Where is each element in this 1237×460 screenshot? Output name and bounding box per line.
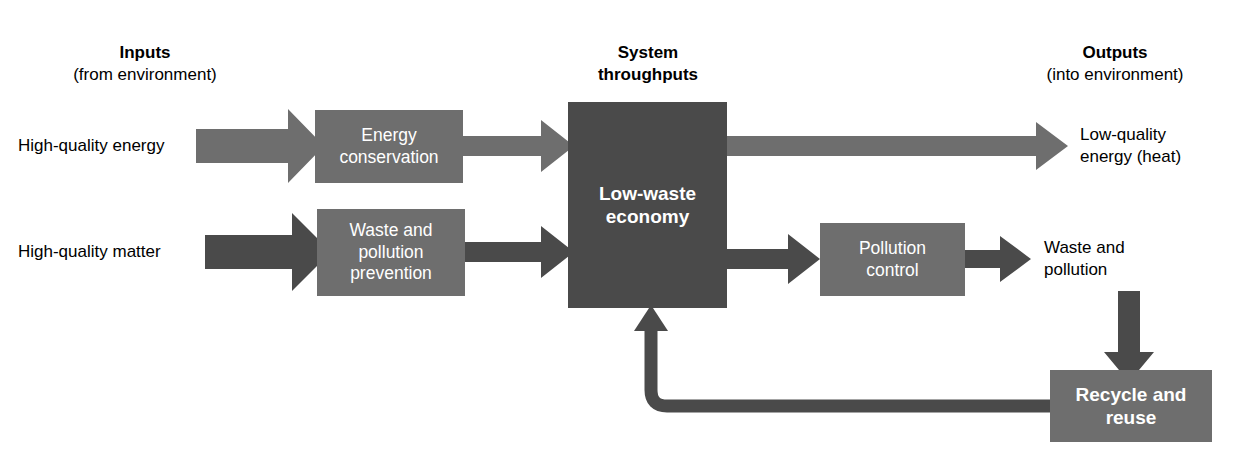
prevention-to-core-arrow <box>464 226 574 278</box>
pollution-control-output-arrow <box>963 236 1031 282</box>
box-waste-prevention-line1: Waste and <box>349 220 432 240</box>
box-pollution-control-line1: Pollution <box>859 238 926 258</box>
header-inputs-subtitle: (from environment) <box>20 64 270 86</box>
output-label-waste-and-pollution: Waste and pollution <box>1044 237 1125 281</box>
header-outputs-title: Outputs <box>1000 42 1230 64</box>
box-waste-prevention-line2: pollution <box>358 242 423 262</box>
box-recycle-and-reuse[interactable]: Recycle and reuse <box>1050 370 1212 442</box>
header-throughputs-subtitle: throughputs <box>548 64 748 86</box>
box-core-line1: Low-waste <box>599 183 696 204</box>
header-throughputs-title: System <box>548 42 748 64</box>
matter-input-arrow <box>205 213 331 291</box>
energy-input-arrow <box>196 109 324 183</box>
waste-to-recycle-arrow <box>1104 291 1154 382</box>
recycle-feedback-arrowhead <box>634 305 668 331</box>
conservation-to-core-arrow <box>461 120 574 172</box>
box-pollution-control[interactable]: Pollution control <box>820 223 965 296</box>
box-low-waste-economy[interactable]: Low-waste economy <box>568 102 727 308</box>
diagram-canvas: Inputs (from environment) System through… <box>0 0 1237 460</box>
box-recycle-line1: Recycle and <box>1076 384 1187 405</box>
output-low-quality-energy-line2: energy (heat) <box>1080 147 1181 166</box>
header-outputs: Outputs (into environment) <box>1000 42 1230 86</box>
output-label-low-quality-energy: Low-quality energy (heat) <box>1080 124 1181 168</box>
box-energy-conservation-line1: Energy <box>361 125 416 145</box>
header-inputs-title: Inputs <box>20 42 270 64</box>
core-to-pollution-control-arrow <box>726 234 820 284</box>
recycle-feedback-arrow <box>651 322 1050 406</box>
box-core-line2: economy <box>606 206 689 227</box>
output-waste-pollution-line2: pollution <box>1044 260 1107 279</box>
input-label-high-quality-energy: High-quality energy <box>18 135 164 157</box>
box-energy-conservation[interactable]: Energy conservation <box>315 110 463 183</box>
box-energy-conservation-line2: conservation <box>339 147 438 167</box>
box-waste-pollution-prevention[interactable]: Waste and pollution prevention <box>317 209 465 296</box>
output-waste-pollution-line1: Waste and <box>1044 238 1125 257</box>
box-recycle-line2: reuse <box>1106 407 1157 428</box>
box-pollution-control-line2: control <box>866 260 919 280</box>
core-heat-output-arrow <box>726 122 1068 170</box>
output-low-quality-energy-line1: Low-quality <box>1080 125 1166 144</box>
header-inputs: Inputs (from environment) <box>20 42 270 86</box>
header-throughputs: System throughputs <box>548 42 748 86</box>
header-outputs-subtitle: (into environment) <box>1000 64 1230 86</box>
box-waste-prevention-line3: prevention <box>350 263 432 283</box>
input-label-high-quality-matter: High-quality matter <box>18 241 161 263</box>
